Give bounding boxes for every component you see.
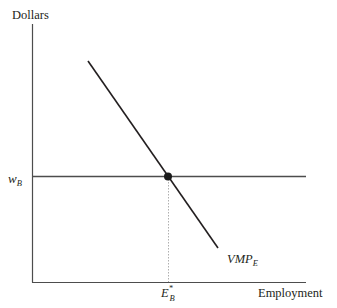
equilibrium-label-sub: B [170,293,175,303]
y-axis-label: Dollars [12,8,49,22]
equilibrium-label: E*B [160,284,175,303]
vmp-label-main: VMP [227,252,253,266]
vmp-curve [88,61,218,248]
equilibrium-label-main: E [160,286,169,300]
vmp-label: VMPE [227,252,259,268]
wage-label-main: w [8,171,17,186]
vmp-label-sub: E [252,258,259,268]
wage-label-sub: B [17,178,22,188]
equilibrium-point [164,173,172,181]
equilibrium-label-sup: * [169,284,173,293]
labor-demand-diagram: Dollars Employment wB VMPE E*B [0,0,337,308]
wage-label: wB [8,171,22,188]
x-axis-label: Employment [258,286,323,300]
